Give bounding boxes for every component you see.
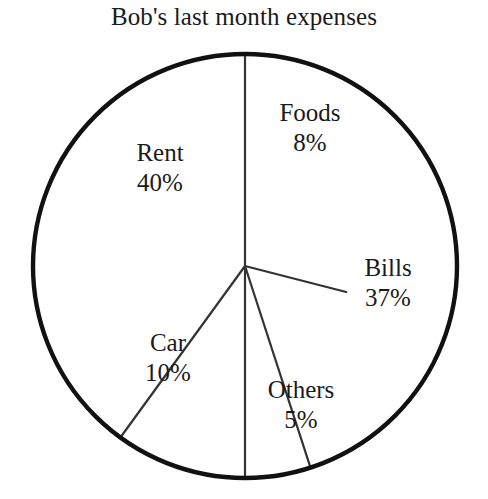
pie-label-car: Car 10% <box>145 328 191 388</box>
pie-label-bills: Bills 37% <box>364 253 411 313</box>
pie-label-rent-name: Rent <box>136 138 183 168</box>
pie-label-others-value: 5% <box>268 405 335 435</box>
pie-label-car-value: 10% <box>145 358 191 388</box>
pie-label-bills-name: Bills <box>364 253 411 283</box>
pie-label-others-name: Others <box>268 375 335 405</box>
pie-label-rent: Rent 40% <box>136 138 183 198</box>
pie-label-rent-value: 40% <box>136 168 183 198</box>
pie-chart-figure: Bob's last month expenses Foods 8% Bills… <box>0 0 488 499</box>
pie-slice-foods[interactable] <box>245 54 354 292</box>
pie-chart-graphic <box>0 0 488 499</box>
pie-label-foods: Foods 8% <box>279 98 340 158</box>
pie-label-foods-value: 8% <box>279 128 340 158</box>
pie-label-others: Others 5% <box>268 375 335 435</box>
pie-label-foods-name: Foods <box>279 98 340 128</box>
pie-label-car-name: Car <box>145 328 191 358</box>
pie-label-bills-value: 37% <box>364 283 411 313</box>
